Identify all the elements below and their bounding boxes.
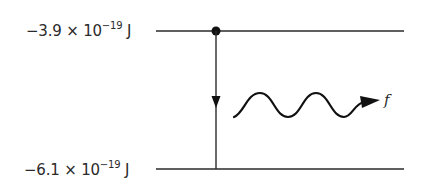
transition-arrowhead-icon [212,96,221,108]
energy-diagram [0,0,422,192]
wavy-arrow-icon [234,93,380,117]
photon-frequency-label: f [384,91,390,109]
